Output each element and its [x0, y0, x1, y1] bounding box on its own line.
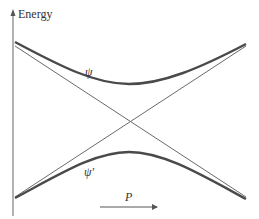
energy-axis-arrow-icon: [11, 9, 16, 16]
upper-curve-psi: [15, 42, 246, 84]
energy-diagram: Energy ψ ψ′ P: [0, 0, 259, 219]
psi-label: ψ: [85, 65, 93, 79]
psi-prime-label: ψ′: [84, 165, 94, 179]
energy-axis-label: Energy: [18, 7, 52, 21]
p-axis-label: P: [124, 190, 133, 204]
